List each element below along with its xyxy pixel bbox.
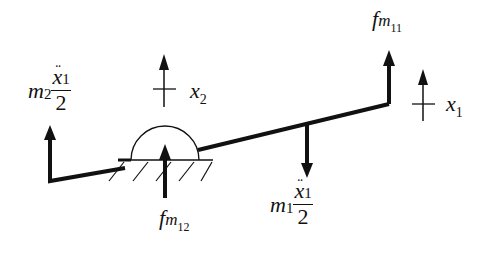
m2-mass-sub: 2 xyxy=(44,86,52,102)
x1-displacement-arrow xyxy=(412,69,435,121)
f-m11-force-arrow xyxy=(383,50,395,66)
x2-label: x2 xyxy=(190,78,207,108)
m2-fraction: ¨x1 2 xyxy=(51,66,70,115)
free-body-diagram xyxy=(0,0,486,257)
x1-label: x1 xyxy=(446,91,463,121)
m2-mass: m xyxy=(28,78,44,103)
f-m11-sub-idx: 11 xyxy=(390,21,402,35)
f-m11-sub-var: m xyxy=(378,11,390,30)
f-m12-force-arrow xyxy=(159,144,171,198)
f-m12-label: fm12 xyxy=(159,205,189,235)
double-dot-accent: ¨ xyxy=(55,60,61,82)
m1-denominator: 2 xyxy=(293,205,312,229)
m1-force-arrow xyxy=(301,124,313,178)
m2-denominator: 2 xyxy=(51,91,70,115)
m1-fraction: ¨x1 2 xyxy=(293,180,312,229)
pivot-support xyxy=(109,126,213,181)
f-m11-label: fm11 xyxy=(372,6,402,36)
m2-inertia-label: m2 ¨x1 2 xyxy=(28,66,71,115)
x1-base: x xyxy=(446,91,456,116)
f-m12-sub-idx: 12 xyxy=(177,220,189,234)
m2-numerator-sub: 1 xyxy=(62,71,70,87)
m2-force-arrow xyxy=(44,125,56,140)
m1-numerator-sub: 1 xyxy=(304,185,312,201)
x1-sub: 1 xyxy=(456,105,463,120)
x2-sub: 2 xyxy=(200,92,207,107)
m1-mass-sub: 1 xyxy=(286,200,294,216)
m1-mass: m xyxy=(270,192,286,217)
x2-base: x xyxy=(190,78,200,103)
m1-inertia-label: m1 ¨x1 2 xyxy=(270,180,313,229)
f-m12-sub-var: m xyxy=(165,210,177,229)
x2-displacement-arrow xyxy=(153,54,176,107)
beam xyxy=(50,62,389,181)
ground-hatch xyxy=(109,162,212,181)
double-dot-accent: ¨ xyxy=(297,174,303,196)
